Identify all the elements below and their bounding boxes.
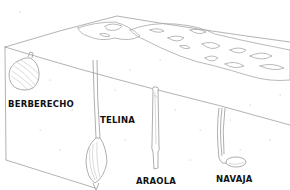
sand-block-top-edge (5, 16, 290, 47)
wet-sand-patches (78, 22, 290, 81)
sand-cross-section-illustration (0, 0, 290, 190)
sand-block-front-top-edge (5, 47, 290, 125)
label-telina: TELINA (100, 116, 135, 125)
label-araola: ARAOLA (136, 177, 176, 186)
sand-block-left-edge (5, 47, 6, 160)
telina-shell-icon (86, 60, 107, 190)
sand-block-bottom-edge (6, 160, 95, 188)
label-navaja: NAVAJA (216, 175, 253, 184)
berberecho-shell-icon (9, 52, 39, 90)
navaja-shell-icon (218, 108, 247, 167)
label-berberecho: BERBERECHO (8, 100, 74, 109)
sand-specks (20, 12, 281, 160)
araola-shell-icon (152, 87, 160, 169)
